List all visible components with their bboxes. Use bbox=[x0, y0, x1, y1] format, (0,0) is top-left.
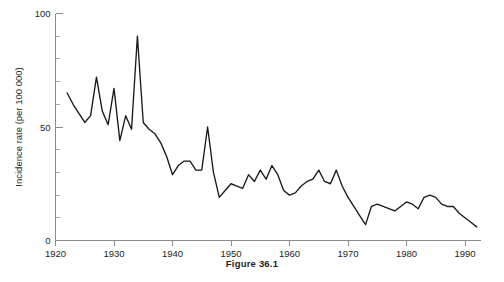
y-tick-label: 100 bbox=[35, 8, 51, 19]
incidence-rate-line-chart: 050100 19201930194019501960197019801990 … bbox=[0, 0, 504, 258]
x-tick-label: 1950 bbox=[220, 248, 241, 259]
x-tick-label: 1990 bbox=[454, 248, 475, 259]
x-tick-label: 1970 bbox=[337, 248, 358, 259]
y-axis: 050100 bbox=[35, 8, 63, 246]
y-tick-label: 50 bbox=[40, 122, 51, 133]
x-tick-label: 1980 bbox=[396, 248, 417, 259]
x-tick-label: 1940 bbox=[162, 248, 183, 259]
figure-caption: Figure 36.1 bbox=[0, 258, 504, 269]
y-axis-title: Incidence rate (per 100 000) bbox=[13, 67, 24, 186]
series-line-incidence-rate bbox=[67, 36, 477, 227]
x-tick-label: 1930 bbox=[103, 248, 124, 259]
y-tick-label: 0 bbox=[45, 235, 50, 246]
x-tick-label: 1920 bbox=[45, 248, 66, 259]
chart-plot-area: 050100 19201930194019501960197019801990 … bbox=[0, 0, 504, 258]
figure-container: 050100 19201930194019501960197019801990 … bbox=[0, 0, 504, 282]
x-tick-label: 1960 bbox=[279, 248, 300, 259]
x-axis: 19201930194019501960197019801990 bbox=[45, 241, 481, 259]
